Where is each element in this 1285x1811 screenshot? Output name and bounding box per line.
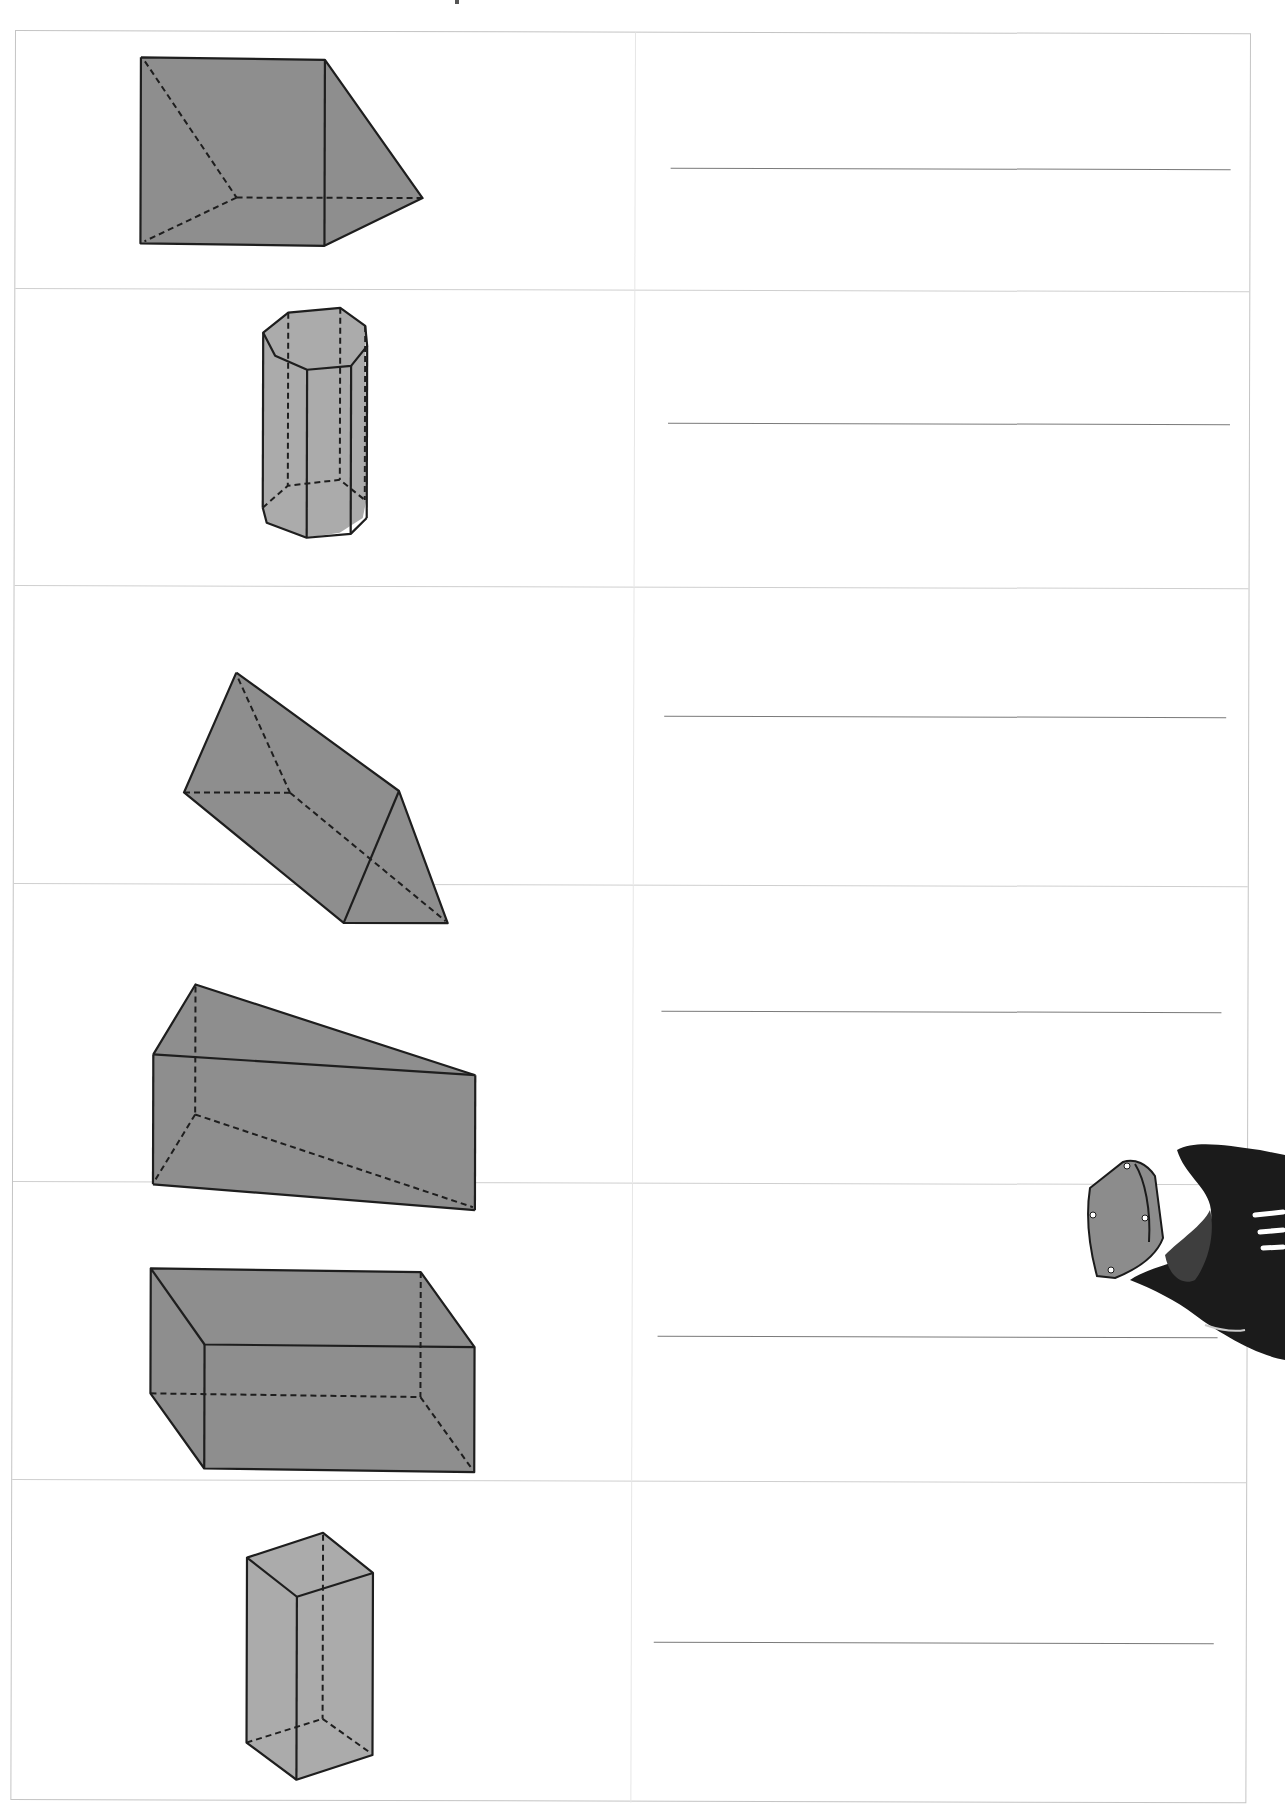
- cropped-text-fragment: [455, 0, 459, 4]
- shape-cell: [15, 289, 636, 587]
- table-row: [13, 884, 1248, 1185]
- shape-cell: [12, 1182, 633, 1481]
- answer-line[interactable]: [668, 423, 1230, 425]
- shape-cell: [14, 586, 635, 885]
- answer-line[interactable]: [661, 1011, 1221, 1013]
- triangular-prism-icon: [153, 984, 454, 1215]
- answer-cell[interactable]: [635, 291, 1250, 589]
- shape-cell: [11, 1480, 632, 1803]
- table-row: [12, 1182, 1247, 1483]
- worksheet: [10, 30, 1265, 1803]
- answer-line[interactable]: [664, 716, 1226, 718]
- answer-line[interactable]: [671, 168, 1231, 170]
- rectangular-prism-icon: [150, 1268, 481, 1489]
- shape-cell: [13, 884, 634, 1183]
- answer-cell[interactable]: [631, 1482, 1246, 1805]
- table-row: [15, 31, 1250, 292]
- triangular-prism-icon: [140, 55, 441, 256]
- shapes-table: [10, 30, 1251, 1803]
- answer-line[interactable]: [654, 1642, 1214, 1644]
- shape-cell: [15, 31, 636, 290]
- table-row: [15, 289, 1250, 589]
- hexagonal-prism-icon: [255, 308, 396, 568]
- cartoon-headset-character-icon: [1085, 1120, 1285, 1370]
- answer-cell[interactable]: [634, 588, 1249, 887]
- table-row: [11, 1480, 1246, 1804]
- answer-cell[interactable]: [635, 33, 1250, 292]
- table-row: [14, 586, 1249, 887]
- square-prism-icon: [246, 1533, 387, 1803]
